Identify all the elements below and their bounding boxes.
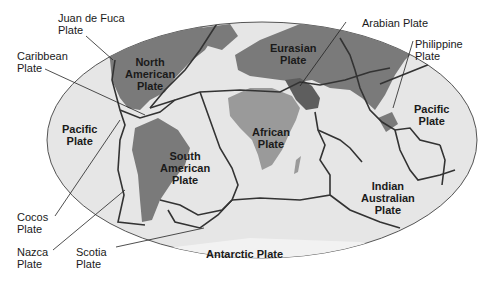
label-philippine-plate: Philippine Plate bbox=[415, 38, 463, 62]
label-arabian-plate: Arabian Plate bbox=[362, 17, 428, 29]
label-south-american-plate: South American Plate bbox=[160, 150, 210, 186]
label-pacific-plate-east: Pacific Plate bbox=[414, 103, 449, 127]
label-pacific-plate-west: Pacific Plate bbox=[62, 123, 97, 147]
label-cocos-plate: Cocos Plate bbox=[17, 211, 48, 235]
label-juan-de-fuca-plate: Juan de Fuca Plate bbox=[58, 12, 125, 36]
label-nazca-plate: Nazca Plate bbox=[17, 246, 48, 270]
label-eurasian-plate: Eurasian Plate bbox=[270, 42, 316, 66]
label-antarctic-plate: Antarctic Plate bbox=[206, 248, 283, 260]
label-indian-australian-plate: Indian Australian Plate bbox=[361, 180, 415, 216]
label-north-american-plate: North American Plate bbox=[125, 56, 175, 92]
label-caribbean-plate: Caribbean Plate bbox=[17, 50, 68, 74]
label-scotia-plate: Scotia Plate bbox=[76, 246, 107, 270]
label-african-plate: African Plate bbox=[252, 126, 290, 150]
